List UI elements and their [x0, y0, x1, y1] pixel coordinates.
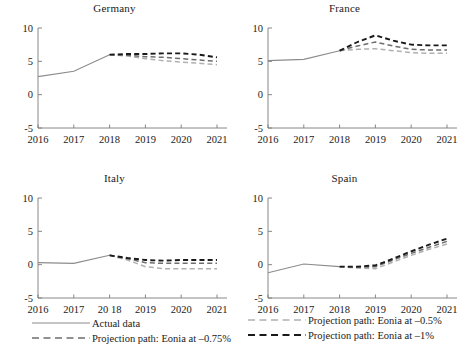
svg-text:10: 10	[23, 23, 34, 34]
svg-text:2021: 2021	[207, 304, 228, 315]
legend-swatch-eonia-075	[30, 332, 92, 344]
svg-text:2016: 2016	[28, 304, 49, 315]
svg-text:2019: 2019	[365, 134, 386, 145]
svg-text:0: 0	[28, 89, 33, 100]
legend-label-eonia-1: Projection path: Eonia at –1%	[308, 330, 434, 341]
legend-key-dashed-line-dark	[246, 327, 308, 345]
svg-text:0: 0	[28, 259, 33, 270]
legend-swatch-eonia-05	[246, 314, 308, 326]
legend-label-actual-data: Actual data	[92, 318, 140, 329]
svg-text:-5: -5	[254, 293, 263, 304]
svg-text:2019: 2019	[135, 304, 156, 315]
plot-france: -50510201620172018201920202021	[230, 0, 459, 170]
svg-text:2017: 2017	[63, 134, 84, 145]
svg-text:2021: 2021	[207, 134, 228, 145]
legend-left: Actual data Projection path: Eonia at –0…	[0, 316, 229, 346]
panel-germany: Germany -50510201620172018201920202021	[0, 0, 229, 170]
svg-text:10: 10	[23, 193, 34, 204]
plot-germany: -50510201620172018201920202021	[0, 0, 229, 170]
legend-item-eonia-1: Projection path: Eonia at –1%	[230, 328, 459, 343]
svg-text:2020: 2020	[171, 134, 192, 145]
legend-key-dashed-line	[30, 330, 92, 348]
svg-text:2018: 2018	[99, 134, 120, 145]
svg-text:2019: 2019	[135, 134, 156, 145]
svg-text:-5: -5	[254, 123, 263, 134]
legend-right: Projection path: Eonia at –0.5% Projecti…	[230, 313, 459, 343]
legend-swatch-actual	[30, 317, 92, 329]
svg-text:2021: 2021	[437, 134, 458, 145]
svg-text:2017: 2017	[63, 304, 84, 315]
svg-text:-5: -5	[24, 293, 33, 304]
legend-label-eonia-05: Projection path: Eonia at –0.5%	[308, 315, 442, 326]
svg-text:2017: 2017	[293, 134, 314, 145]
svg-text:10: 10	[253, 23, 264, 34]
svg-text:2016: 2016	[258, 134, 279, 145]
svg-text:5: 5	[258, 56, 263, 67]
svg-text:2020: 2020	[171, 304, 192, 315]
svg-text:-5: -5	[24, 123, 33, 134]
svg-text:2020: 2020	[401, 134, 422, 145]
legend-item-eonia-075: Projection path: Eonia at –0.75%	[0, 331, 229, 346]
legend-label-eonia-075: Projection path: Eonia at –0.75%	[92, 333, 231, 344]
figure-multi-panel-line-charts: Germany -50510201620172018201920202021 F…	[0, 0, 459, 350]
svg-text:5: 5	[258, 226, 263, 237]
svg-text:2018: 2018	[329, 134, 350, 145]
svg-text:2016: 2016	[28, 134, 49, 145]
legend-swatch-eonia-1	[246, 329, 308, 341]
svg-text:0: 0	[258, 89, 263, 100]
svg-text:5: 5	[28, 56, 33, 67]
svg-text:5: 5	[28, 226, 33, 237]
panel-france: France -50510201620172018201920202021	[230, 0, 459, 170]
svg-text:0: 0	[258, 259, 263, 270]
svg-text:10: 10	[253, 193, 264, 204]
svg-text:20 18: 20 18	[98, 304, 122, 315]
